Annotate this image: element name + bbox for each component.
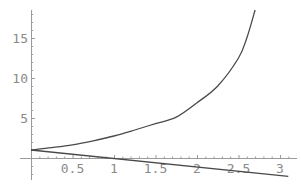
y-tick-label: 10 — [12, 71, 28, 86]
x-tick-label: 1 — [110, 161, 118, 176]
x-tick-label: 3 — [276, 161, 284, 176]
x-tick-label: 0.5 — [61, 161, 84, 176]
y-tick-label: 15 — [12, 31, 28, 46]
x-tick-label: 2.5 — [227, 161, 250, 176]
line-chart: 0.511.522.5351015 — [0, 0, 301, 189]
y-tick-label: 5 — [20, 111, 28, 126]
ticks — [32, 15, 289, 175]
axes — [20, 10, 297, 180]
data-series — [31, 10, 288, 176]
x-tick-label: 2 — [193, 161, 201, 176]
growing-curve — [31, 10, 255, 150]
tick-labels: 0.511.522.5351015 — [12, 31, 284, 176]
